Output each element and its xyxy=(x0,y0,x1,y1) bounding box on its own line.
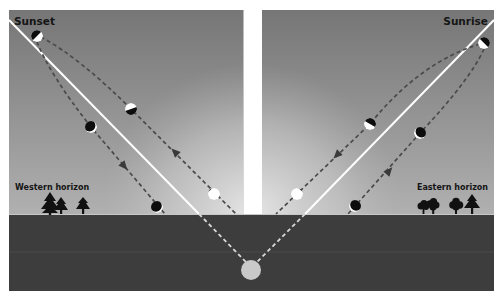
sunset-title: Sunset xyxy=(14,15,55,27)
hidden-moon-icon xyxy=(241,260,261,280)
eastern-horizon-label: Eastern horizon xyxy=(417,183,488,192)
moon-sunset-sunrise-diagram: Sunset Sunrise Western horizon Eastern h… xyxy=(0,0,501,302)
sunrise-title: Sunrise xyxy=(443,15,488,27)
western-horizon-label: Western horizon xyxy=(15,183,89,192)
